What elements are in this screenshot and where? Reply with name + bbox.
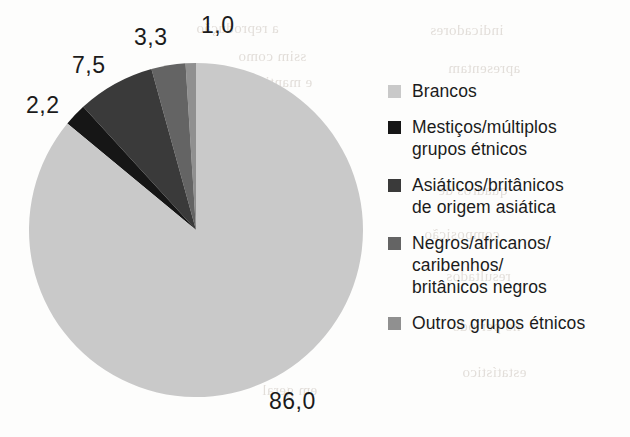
legend-swatch	[388, 121, 401, 134]
pie-value-label: 86,0	[269, 388, 316, 415]
legend-swatch	[388, 179, 401, 192]
legend-item: Outros grupos étnicos	[388, 312, 624, 334]
legend-item: Brancos	[388, 80, 624, 102]
pie-svg	[28, 62, 364, 398]
bleed-through-text: estatístico	[462, 364, 526, 381]
pie-value-label: 3,3	[134, 24, 167, 51]
legend-item: Mestiços/múltiplos grupos étnicos	[388, 116, 624, 160]
bleed-through-text: indicadores	[430, 22, 504, 39]
legend-label: Asiáticos/britânicos de origem asiática	[412, 174, 564, 218]
chart-page: a reproduçãossim comoe mantidaa completo…	[0, 0, 630, 437]
bleed-through-text: apresentam	[448, 60, 520, 77]
legend: BrancosMestiços/múltiplos grupos étnicos…	[388, 80, 624, 348]
legend-item: Negros/africanos/ caribenhos/ britânicos…	[388, 232, 624, 298]
legend-swatch	[388, 237, 401, 250]
legend-label: Mestiços/múltiplos grupos étnicos	[412, 116, 557, 160]
legend-label: Outros grupos étnicos	[412, 312, 585, 334]
legend-swatch	[388, 85, 401, 98]
pie-value-label: 7,5	[72, 52, 105, 79]
pie-value-label: 1,0	[201, 12, 234, 39]
legend-item: Asiáticos/britânicos de origem asiática	[388, 174, 624, 218]
pie-value-label: 2,2	[26, 92, 59, 119]
legend-label: Brancos	[412, 80, 477, 102]
legend-label: Negros/africanos/ caribenhos/ britânicos…	[412, 232, 551, 298]
legend-swatch	[388, 317, 401, 330]
pie-chart	[28, 62, 364, 398]
